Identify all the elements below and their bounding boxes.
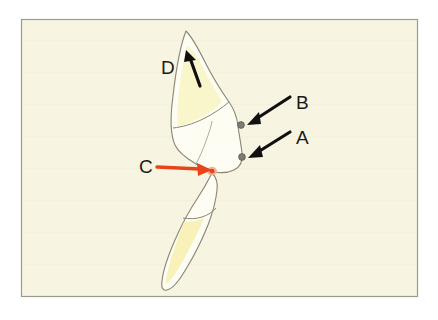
label-c: C bbox=[139, 156, 153, 177]
label-d: D bbox=[161, 57, 175, 78]
marker-dot-upper bbox=[238, 122, 245, 129]
figure-root: D B A C bbox=[0, 0, 438, 320]
label-a: A bbox=[296, 127, 309, 148]
marker-dot-lower bbox=[239, 154, 246, 161]
anatomical-figure: D B A C bbox=[0, 0, 438, 320]
label-b: B bbox=[296, 92, 309, 113]
